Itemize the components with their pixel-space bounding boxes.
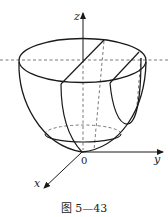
x-axis-label: x (34, 177, 41, 190)
bowl-outline (19, 62, 146, 152)
y-axis-label: y (153, 153, 161, 166)
cut-curve-right-u (110, 58, 141, 124)
paraboloid-diagram: z y x 0 (0, 0, 168, 217)
figure-caption: 图 5—43 (0, 199, 168, 215)
z-axis-label: z (73, 10, 80, 23)
top-cut-line-2 (110, 52, 139, 83)
x-axis (44, 152, 82, 188)
origin-label: 0 (81, 155, 87, 166)
hidden-vertical-dashed-1 (94, 41, 104, 150)
